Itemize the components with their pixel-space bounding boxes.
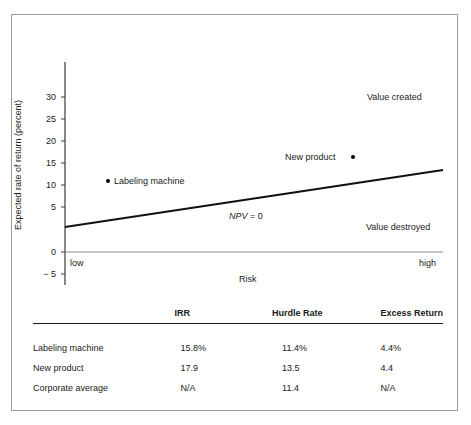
- x-axis-label-high: high: [419, 258, 436, 268]
- table-cell-irr: 17.9: [175, 358, 273, 378]
- table-row: Corporate average N/A 11.4 N/A: [33, 378, 443, 398]
- y-tick-label-minus-5: − 5: [28, 270, 56, 279]
- table-cell-label: New product: [33, 358, 175, 378]
- y-tick-label-0: 0: [34, 248, 56, 257]
- table-cell-irr: N/A: [175, 378, 273, 398]
- table-header-blank: [33, 308, 175, 324]
- y-tick-label-25: 25: [34, 115, 56, 124]
- table-header-row: IRR Hurdle Rate Excess Return: [33, 308, 443, 324]
- table-cell-hurdle-rate: 11.4%: [272, 324, 380, 359]
- summary-table: IRR Hurdle Rate Excess Return Labeling m…: [33, 308, 443, 398]
- table-row: New product 17.9 13.5 4.4: [33, 358, 443, 378]
- y-tick-label-30: 30: [34, 93, 56, 102]
- y-tick-label-5: 5: [34, 203, 56, 212]
- table-cell-irr: 15.8%: [175, 324, 273, 359]
- npv-zero-annotation-suffix: = 0: [250, 211, 263, 221]
- table-cell-excess-return: 4.4: [380, 358, 443, 378]
- table-cell-hurdle-rate: 11.4: [272, 378, 380, 398]
- table-cell-excess-return: N/A: [380, 378, 443, 398]
- y-axis-title: Expected rate of return (percent): [13, 85, 23, 245]
- x-axis-title: Risk: [239, 274, 257, 284]
- table-cell-hurdle-rate: 13.5: [272, 358, 380, 378]
- data-point-label-labeling-machine: Labeling machine: [114, 176, 185, 186]
- table-cell-label: Labeling machine: [33, 324, 175, 359]
- table-cell-label: Corporate average: [33, 378, 175, 398]
- table-header-irr: IRR: [175, 308, 273, 324]
- table-header-hurdle-rate: Hurdle Rate: [272, 308, 380, 324]
- data-point-label-new-product: New product: [285, 152, 336, 162]
- table-header-excess-return: Excess Return: [380, 308, 443, 324]
- npv-zero-annotation: NPV = 0: [229, 211, 263, 221]
- chart-plot-area: Expected rate of return (percent) 30 25 …: [0, 0, 471, 310]
- table-cell-excess-return: 4.4%: [380, 324, 443, 359]
- npv-zero-annotation-italic: NPV: [229, 211, 248, 221]
- data-point-new-product[interactable]: [351, 155, 355, 159]
- annotation-value-created: Value created: [367, 92, 422, 102]
- y-tick-label-15: 15: [34, 159, 56, 168]
- data-point-labeling-machine[interactable]: [106, 179, 110, 183]
- y-tick-label-10: 10: [34, 181, 56, 190]
- annotation-value-destroyed: Value destroyed: [366, 222, 430, 232]
- y-tick-label-20: 20: [34, 137, 56, 146]
- x-axis-label-low: low: [70, 258, 84, 268]
- table-row: Labeling machine 15.8% 11.4% 4.4%: [33, 324, 443, 359]
